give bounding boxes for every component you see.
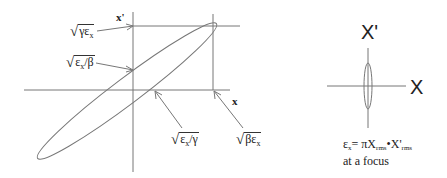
- label-sqrt-beta-eps: √βεx: [236, 132, 261, 150]
- xp-axis-label: x': [116, 12, 125, 23]
- label-sqrt-eps-gamma: √εx/γ: [171, 132, 199, 150]
- label-sqrt-eps-beta: √εx/β: [66, 55, 95, 73]
- x-axis-label: x: [232, 96, 238, 107]
- emittance-caption: εx= πXrms•X'rms at a focus: [343, 138, 412, 168]
- label-sqrt-gamma-eps: √γεx: [70, 24, 94, 42]
- right-xp-axis-label: X': [361, 22, 378, 42]
- right-x-axis-label: X: [410, 77, 423, 97]
